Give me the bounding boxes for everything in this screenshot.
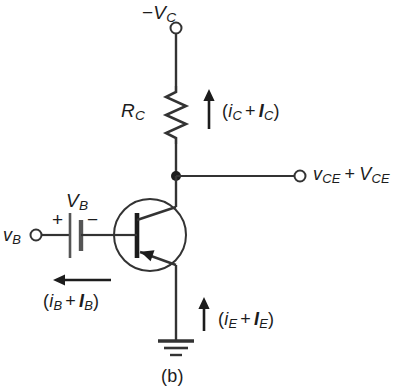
emitter-close-paren: ) [268,309,274,329]
base-input-subscript: B [12,232,21,247]
collector-resistor-symbol [166,86,186,144]
supply-symbol: V [153,2,166,23]
base-current-arrow [53,274,111,285]
figure-caption: (b) [161,366,184,387]
circuit-diagram-figure: −VC RC (iC+IC) vCE+VCE VB + − vB (iB+IB)… [0,0,407,392]
base-current-label: (iB+IB) [43,291,99,313]
base-source-label: VB [66,190,88,213]
base-bias-battery-symbol [70,213,81,258]
collector-resistor-label: RC [121,100,145,123]
base-close-paren: ) [93,291,99,311]
collector-current-arrow [203,89,214,129]
base-ac-subscript: B [53,298,62,313]
base-input-label: vB [3,225,21,247]
earth-ground-symbol [158,341,194,355]
supply-minus-sign: − [142,2,153,23]
supply-subscript: C [166,10,176,25]
collector-emitter-output-terminal-node[interactable] [295,171,306,182]
base-plus-sign: + [62,291,79,311]
transistor-emitter-slant-lead [140,250,176,265]
battery-positive-sign: + [52,209,63,231]
collector-current-label: (iC+IC) [222,101,280,123]
pnp-emitter-arrowhead [141,250,155,261]
output-dc-subscript: CE [372,171,390,186]
output-ac-subscript: CE [322,171,340,186]
emitter-current-arrow [198,297,209,331]
emitter-plus-sign: + [237,309,254,329]
battery-negative-sign: − [87,209,98,231]
negative-supply-label: −VC [142,2,176,25]
collector-close-paren: ) [273,101,279,121]
output-voltage-label: vCE+VCE [313,164,390,186]
circuit-schematic-canvas [0,0,407,392]
output-ac-symbol: v [313,164,322,184]
base-source-symbol: V [66,190,79,211]
emitter-ac-subscript: E [228,316,237,331]
emitter-current-label: (iE+IE) [218,309,274,331]
resistor-subscript: C [135,108,145,123]
emitter-dc-subscript: E [259,316,268,331]
transistor-collector-slant-lead [137,207,176,220]
output-dc-symbol: V [359,164,371,184]
output-plus-sign: + [341,164,360,184]
collector-ac-subscript: C [232,108,242,123]
base-input-terminal-node[interactable] [31,230,42,241]
collector-plus-sign: + [242,101,259,121]
base-dc-subscript: B [84,298,93,313]
base-input-symbol: v [3,225,12,245]
resistor-symbol-text: R [121,100,135,121]
